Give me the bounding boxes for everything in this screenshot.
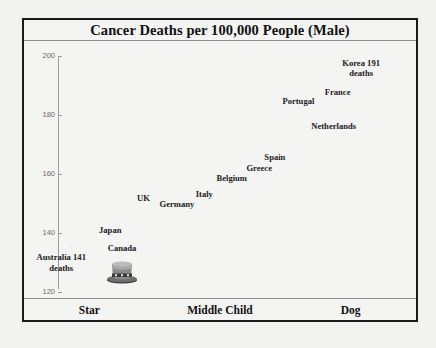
x-category-middle-child: Middle Child (155, 304, 286, 316)
y-tick-160: 160 (58, 174, 62, 175)
x-category-star: Star (24, 304, 155, 316)
y-tick-label-120: 120 (42, 287, 55, 296)
chart-frame: Cancer Deaths per 100,000 People (Male) … (22, 18, 418, 322)
plot-area: 200 180 160 140 120 Korea 191deaths Fran… (24, 41, 416, 298)
data-label-germany: Germany (159, 199, 194, 210)
y-tick-180: 180 (58, 115, 62, 116)
x-category-dog: Dog (285, 304, 416, 316)
y-tick-label-140: 140 (42, 228, 55, 237)
x-axis-category-band: Star Middle Child Dog (24, 298, 416, 320)
data-label-belgium: Belgium (216, 173, 247, 184)
top-hat-icon (105, 255, 139, 285)
data-label-france: France (325, 87, 351, 98)
data-label-portugal: Portugal (282, 96, 314, 107)
y-tick-140: 140 (58, 233, 62, 234)
data-label-spain: Spain (264, 151, 285, 162)
y-tick-label-200: 200 (42, 51, 55, 60)
data-label-uk: UK (137, 193, 150, 204)
y-tick-label-160: 160 (42, 169, 55, 178)
data-label-italy: Italy (196, 189, 213, 200)
y-tick-120: 120 (58, 292, 62, 293)
data-label-greece: Greece (246, 163, 272, 174)
y-tick-label-180: 180 (42, 110, 55, 119)
data-label-canada: Canada (108, 243, 137, 254)
data-label-korea: Korea 191deaths (342, 57, 380, 78)
page-title: Cancer Deaths per 100,000 People (Male) (90, 22, 349, 39)
y-tick-200: 200 (58, 56, 62, 57)
data-label-australia: Australia 141deaths (37, 252, 86, 273)
data-label-netherlands: Netherlands (311, 121, 356, 132)
data-label-japan: Japan (99, 225, 121, 236)
chart-title-band: Cancer Deaths per 100,000 People (Male) (24, 20, 416, 41)
